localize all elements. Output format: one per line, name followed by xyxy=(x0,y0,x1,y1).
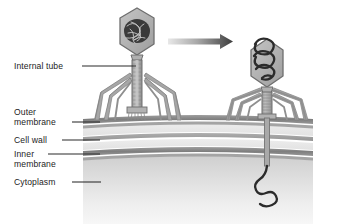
bacterial-cell-envelope xyxy=(83,115,313,224)
label-outer-membrane-line1: Outer xyxy=(14,107,36,117)
label-inner-membrane-line1: Inner xyxy=(14,149,34,159)
tail-fibers-left-fill xyxy=(95,73,132,120)
phage-injection-diagram: Internal tube Outer membrane Cell wall I… xyxy=(0,0,338,224)
contracted-sheath xyxy=(262,92,272,115)
packaged-dna xyxy=(124,19,150,43)
diagram-canvas xyxy=(0,0,338,224)
tail-fibers-right-fill xyxy=(144,73,181,120)
label-cytoplasm: Cytoplasm xyxy=(14,177,56,187)
label-outer-membrane-line2: membrane xyxy=(14,117,56,127)
label-inner-membrane-line2: membrane xyxy=(14,159,56,169)
phage-before-injection xyxy=(95,8,181,120)
cytoplasm-region xyxy=(83,156,313,224)
baseplate xyxy=(127,107,147,113)
process-arrow xyxy=(168,34,233,49)
internal-tube xyxy=(136,60,139,108)
penetrating-tail-tube xyxy=(265,118,270,166)
label-internal-tube: Internal tube xyxy=(14,61,63,71)
label-cell-wall: Cell wall xyxy=(14,135,47,145)
